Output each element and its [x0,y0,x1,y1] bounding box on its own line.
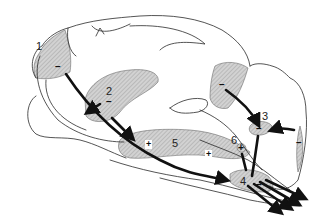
arrow-cerebellum-to-3 [272,129,294,131]
region-1-sign: – [55,62,61,72]
occipital-shading [210,62,248,108]
region-5-sign-right: + [205,150,212,159]
region-3-label: 3 [262,111,268,122]
region-1-shading [34,30,71,79]
region-3-sign: – [256,124,262,134]
region-2-sign: – [106,97,112,107]
arrow-3-to-4 [252,136,258,176]
hippocampus-outline [130,26,205,50]
region-5-sign-left: + [145,140,152,149]
cerebrum-inner-outline [67,24,130,56]
region-6-sign: + [238,143,244,153]
brain-diagram [0,0,322,219]
arrow-occipital-to-3 [226,90,258,124]
region-1-label: 1 [36,41,42,52]
region-4-sign: – [256,180,262,190]
region-4-label: 4 [240,176,246,187]
region-6-label: 6 [231,135,237,146]
cortex-second-line [46,80,86,130]
cerebellar-sign: – [296,138,302,148]
region-5-label: 5 [172,138,178,149]
occipital-sign: – [219,80,225,90]
